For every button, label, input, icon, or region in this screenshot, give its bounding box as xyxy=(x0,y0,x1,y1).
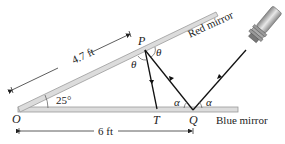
label-point-q: Q xyxy=(189,113,198,127)
flashlight-icon xyxy=(246,4,283,44)
label-theta-right: θ xyxy=(156,46,162,58)
label-oq-length: 6 ft xyxy=(98,125,113,137)
light-ray-path xyxy=(145,50,246,110)
label-point-o: O xyxy=(12,112,21,126)
label-alpha-right: α xyxy=(206,96,212,108)
label-theta-left: θ xyxy=(131,58,137,70)
label-alpha-left: α xyxy=(174,96,180,108)
mirror-reflection-diagram: 4.7 ft 25° θ θ α α O P T Q Red mirror Bl… xyxy=(0,0,285,144)
label-blue-mirror: Blue mirror xyxy=(216,114,268,126)
label-point-t: T xyxy=(153,113,161,127)
label-op-length: 4.7 ft xyxy=(70,45,96,66)
blue-mirror xyxy=(18,107,238,112)
label-point-p: P xyxy=(137,34,146,48)
label-angle-25: 25° xyxy=(56,94,71,106)
theta-arc-left xyxy=(138,56,146,60)
